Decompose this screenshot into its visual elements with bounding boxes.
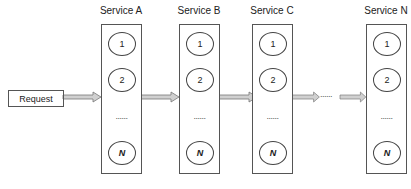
- node-2: 2: [108, 68, 136, 92]
- node-2: 2: [259, 68, 287, 92]
- request-label: Request: [19, 94, 53, 104]
- node-n: N: [186, 141, 214, 165]
- node-ellipsis: ......: [102, 111, 141, 121]
- service-a-label: Service A: [86, 5, 156, 16]
- service-n-label: Service N: [351, 5, 411, 16]
- service-c-box: 1 2 ...... N: [252, 24, 293, 174]
- service-a-box: 1 2 ...... N: [101, 24, 142, 174]
- node-2: 2: [373, 68, 401, 92]
- node-ellipsis: ......: [180, 111, 219, 121]
- service-b-label: Service B: [164, 5, 234, 16]
- node-1: 1: [259, 32, 287, 56]
- service-n-box: 1 2 ...... N: [366, 24, 407, 174]
- arrow-request-to-a: [63, 92, 101, 102]
- node-n: N: [373, 141, 401, 165]
- node-1: 1: [373, 32, 401, 56]
- arrow-a-to-b: [141, 92, 179, 102]
- request-box: Request: [8, 90, 64, 107]
- arrow-dots-to-n: [340, 92, 366, 102]
- node-1: 1: [108, 32, 136, 56]
- node-1: 1: [186, 32, 214, 56]
- service-b-box: 1 2 ...... N: [179, 24, 220, 174]
- node-n: N: [108, 141, 136, 165]
- service-c-label: Service C: [237, 5, 307, 16]
- arrow-c-to-dots: [292, 92, 319, 102]
- between-ellipsis: ......: [320, 89, 332, 99]
- node-ellipsis: ......: [253, 111, 292, 121]
- node-ellipsis: ......: [367, 111, 406, 121]
- node-2: 2: [186, 68, 214, 92]
- node-n: N: [259, 141, 287, 165]
